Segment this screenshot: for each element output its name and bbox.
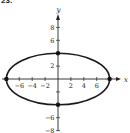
vertex-point (107, 77, 111, 81)
x-tick-label: −4 (27, 82, 37, 90)
x-tick-label: −6 (15, 82, 25, 90)
problem-number: 23. (1, 0, 12, 5)
axes: xy (2, 6, 128, 131)
y-tick-label: 8 (50, 24, 54, 32)
vertex-point (56, 103, 60, 107)
ellipse-chart: 23. xy −6−4−2246862−6−8 (0, 0, 130, 133)
x-tick-label: 6 (95, 82, 99, 90)
y-axis-label: y (56, 6, 62, 14)
y-tick-label: −8 (45, 127, 55, 133)
x-tick-label: −2 (40, 82, 50, 90)
vertex-point (56, 51, 60, 55)
y-tick-label: 2 (50, 62, 54, 70)
problem-label: 23. (1, 0, 12, 5)
x-tick-label: 4 (82, 82, 86, 90)
vertex-point (4, 77, 8, 81)
x-axis-arrow-icon (116, 77, 121, 81)
x-axis-label: x (124, 76, 128, 84)
x-tick-label: 2 (69, 82, 73, 90)
y-tick-label: −6 (45, 114, 55, 122)
y-axis-arrow-icon (56, 14, 60, 20)
y-tick-label: 6 (50, 37, 54, 45)
